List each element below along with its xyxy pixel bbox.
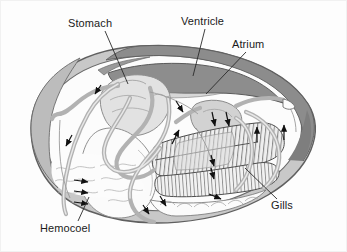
label-text-ventricle: Ventricle [181,15,224,27]
bivalve-circulatory-diagram: Stomach Ventricle Atrium Gills Hemocoel [0,0,347,252]
anatomy-figure: Stomach Ventricle Atrium Gills Hemocoel [0,0,347,252]
label-text-atrium: Atrium [232,38,264,50]
label-text-gills: Gills [271,199,293,211]
label-text-stomach: Stomach [68,17,112,29]
label-text-hemocoel: Hemocoel [40,222,90,234]
